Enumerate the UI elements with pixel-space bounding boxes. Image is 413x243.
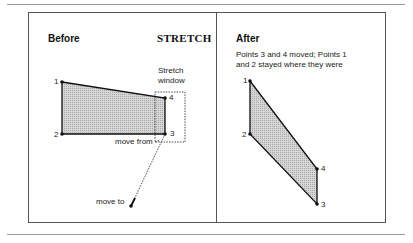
after-point-4-label: 4 <box>321 164 325 174</box>
point-2-label: 2 <box>54 130 58 140</box>
move-to-label: move to <box>96 197 124 207</box>
after-point-2-label: 2 <box>242 130 246 140</box>
before-title: Before <box>48 33 80 44</box>
point-1-label: 1 <box>54 77 58 87</box>
after-point-3-label: 3 <box>321 200 325 210</box>
point-4-label: 4 <box>169 93 173 103</box>
stretch-window-label-2: window <box>158 76 185 86</box>
after-description: Points 3 and 4 moved; Points 1 <box>236 50 347 60</box>
after-point-1-label: 1 <box>243 76 247 86</box>
after-shape <box>250 81 317 204</box>
after-title: After <box>236 33 259 44</box>
command-name: STRETCH <box>157 32 212 44</box>
point-3-label: 3 <box>170 129 174 139</box>
bottom-rule <box>7 234 405 235</box>
stretch-window-label: Stretch <box>158 66 183 76</box>
before-shape <box>62 82 165 134</box>
move-from-label: move from <box>115 137 153 147</box>
after-description-2: and 2 stayed where they were <box>236 60 343 70</box>
